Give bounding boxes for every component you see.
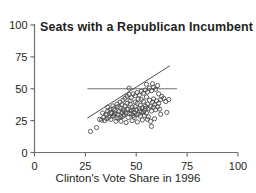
y-tick-label: 75 <box>15 51 27 63</box>
x-tick-label: 0 <box>31 160 37 172</box>
data-points <box>88 82 171 134</box>
data-point <box>144 82 148 86</box>
data-point <box>135 120 139 124</box>
x-tick-label: 25 <box>79 160 91 172</box>
y-tick-label: 100 <box>9 19 27 31</box>
data-point <box>165 110 169 114</box>
x-tick-label: 50 <box>130 160 142 172</box>
x-tick-label: 75 <box>181 160 193 172</box>
y-tick-label: 25 <box>15 115 27 127</box>
data-point <box>159 112 163 116</box>
data-point <box>146 115 150 119</box>
data-point <box>88 129 92 133</box>
y-tick-label: 50 <box>15 83 27 95</box>
data-point <box>127 86 131 90</box>
data-point <box>152 117 156 121</box>
data-point <box>124 120 128 124</box>
y-tick-label: 0 <box>21 147 27 159</box>
x-tick-label: 100 <box>229 160 247 172</box>
chart-title: Seats with a Republican Incumbent <box>40 20 253 34</box>
data-point <box>150 82 154 86</box>
data-point <box>111 104 115 108</box>
data-point <box>94 126 98 130</box>
x-axis-ticks <box>35 153 239 157</box>
data-point <box>156 83 160 87</box>
data-point <box>144 95 148 99</box>
data-point <box>149 124 153 128</box>
x-axis-label: Clinton's Vote Share in 1996 <box>0 172 256 184</box>
scatter-plot-figure: Seats with a Republican Incumbent Clinto… <box>0 0 256 193</box>
